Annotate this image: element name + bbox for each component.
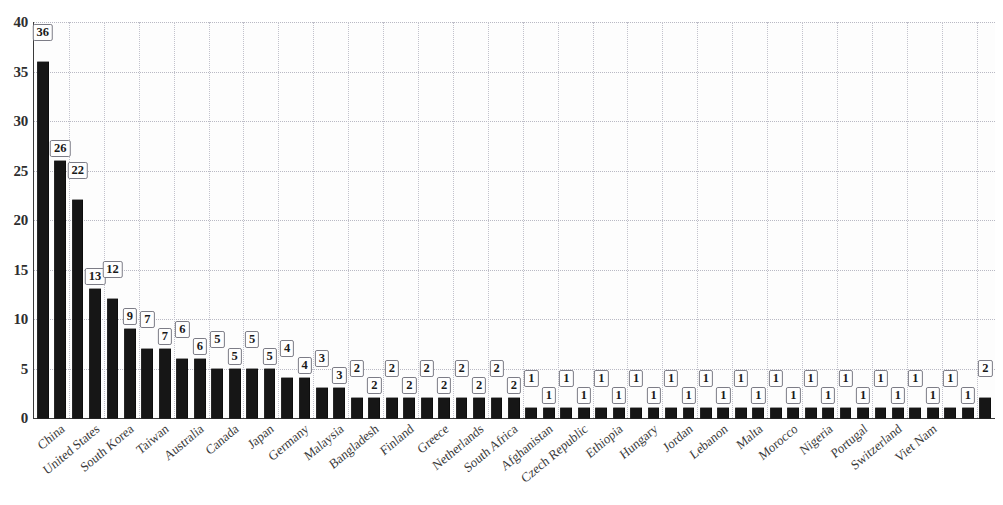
bar[interactable]	[334, 388, 345, 418]
bar[interactable]	[962, 408, 973, 418]
bar[interactable]	[945, 408, 956, 418]
y-axis-tick-label: 5	[21, 360, 28, 377]
bar[interactable]	[543, 408, 554, 418]
bar-value-label: 1	[699, 370, 713, 387]
bar-slot: 1	[872, 22, 889, 418]
bar[interactable]	[631, 408, 642, 418]
bar[interactable]	[351, 398, 362, 418]
bar-value-label: 12	[102, 261, 123, 278]
bar[interactable]	[386, 398, 397, 418]
bar[interactable]	[805, 408, 816, 418]
bar-value-label: 2	[455, 360, 469, 377]
bar[interactable]	[439, 398, 450, 418]
bar-slot: 1	[593, 22, 610, 418]
bar[interactable]	[299, 378, 310, 418]
bar-slot: 1	[715, 22, 732, 418]
bar-slot: 2	[505, 22, 522, 418]
bar[interactable]	[194, 359, 205, 418]
bar[interactable]	[770, 408, 781, 418]
bar[interactable]	[666, 408, 677, 418]
bar-slot: 5	[209, 22, 226, 418]
bar[interactable]	[735, 408, 746, 418]
bar-slot: 1	[610, 22, 627, 418]
bar[interactable]	[474, 398, 485, 418]
y-axis-tick-label: 10	[13, 311, 28, 328]
bar-slot: 22	[69, 22, 86, 418]
bar-value-label: 1	[821, 387, 835, 404]
bar[interactable]	[55, 161, 66, 418]
bar[interactable]	[421, 398, 432, 418]
bar[interactable]	[72, 200, 83, 418]
bar-value-label: 36	[32, 24, 53, 41]
bar-value-label: 1	[594, 370, 608, 387]
bar[interactable]	[212, 369, 223, 419]
bar[interactable]	[264, 369, 275, 419]
x-axis-tick-label-text: Australia	[161, 420, 207, 464]
bar[interactable]	[927, 408, 938, 418]
bar[interactable]	[369, 398, 380, 418]
bar[interactable]	[317, 388, 328, 418]
bar-value-label: 2	[402, 377, 416, 394]
bar-value-label: 1	[716, 387, 730, 404]
bar[interactable]	[159, 349, 170, 418]
bar-slot: 1	[645, 22, 662, 418]
bar[interactable]	[788, 408, 799, 418]
bar-value-label: 7	[140, 311, 154, 328]
bar[interactable]	[910, 408, 921, 418]
bar[interactable]	[718, 408, 729, 418]
bar-value-label: 1	[664, 370, 678, 387]
bar[interactable]	[509, 398, 520, 418]
bar-value-label: 2	[350, 360, 364, 377]
bar[interactable]	[456, 398, 467, 418]
bar[interactable]	[142, 349, 153, 418]
bar-value-label: 1	[681, 387, 695, 404]
x-axis-tick-label-text: Hungary	[617, 420, 661, 463]
bar[interactable]	[177, 359, 188, 418]
bar[interactable]	[404, 398, 415, 418]
bar[interactable]	[37, 62, 48, 418]
bar[interactable]	[125, 329, 136, 418]
bar[interactable]	[701, 408, 712, 418]
bar-slot: 5	[261, 22, 278, 418]
bar[interactable]	[561, 408, 572, 418]
bar[interactable]	[753, 408, 764, 418]
bar-slot: 13	[86, 22, 103, 418]
bar-slot: 2	[470, 22, 487, 418]
bar-value-label: 1	[839, 370, 853, 387]
bar-slot: 1	[662, 22, 679, 418]
bar[interactable]	[683, 408, 694, 418]
bar[interactable]	[578, 408, 589, 418]
bar-value-label: 3	[315, 350, 329, 367]
bar[interactable]	[613, 408, 624, 418]
bars-container: 3626221312977665555443322222222221111111…	[34, 22, 994, 418]
bar-value-label: 1	[804, 370, 818, 387]
bar-slot: 12	[104, 22, 121, 418]
bar-slot: 1	[558, 22, 575, 418]
bar-value-label: 6	[193, 338, 207, 355]
bar[interactable]	[229, 369, 240, 419]
bar-value-label: 4	[297, 357, 311, 374]
bar[interactable]	[526, 408, 537, 418]
bar[interactable]	[858, 408, 869, 418]
bar[interactable]	[893, 408, 904, 418]
x-axis-tick-label: Hungary	[616, 421, 661, 463]
bar[interactable]	[90, 289, 101, 418]
bar-slot: 1	[889, 22, 906, 418]
bar[interactable]	[596, 408, 607, 418]
bar[interactable]	[823, 408, 834, 418]
bar-value-label: 5	[228, 348, 242, 365]
bar[interactable]	[491, 398, 502, 418]
bar-value-label: 3	[332, 367, 346, 384]
bar-slot: 2	[401, 22, 418, 418]
bar[interactable]	[875, 408, 886, 418]
y-axis-tick-label: 0	[21, 410, 28, 427]
x-axis-tick-label-text: Canada	[203, 420, 242, 458]
bar[interactable]	[247, 369, 258, 419]
bar[interactable]	[282, 378, 293, 418]
bar[interactable]	[107, 299, 118, 418]
bar-slot: 1	[907, 22, 924, 418]
bar[interactable]	[840, 408, 851, 418]
bar[interactable]	[648, 408, 659, 418]
bar[interactable]	[980, 398, 991, 418]
bar-slot: 6	[174, 22, 191, 418]
